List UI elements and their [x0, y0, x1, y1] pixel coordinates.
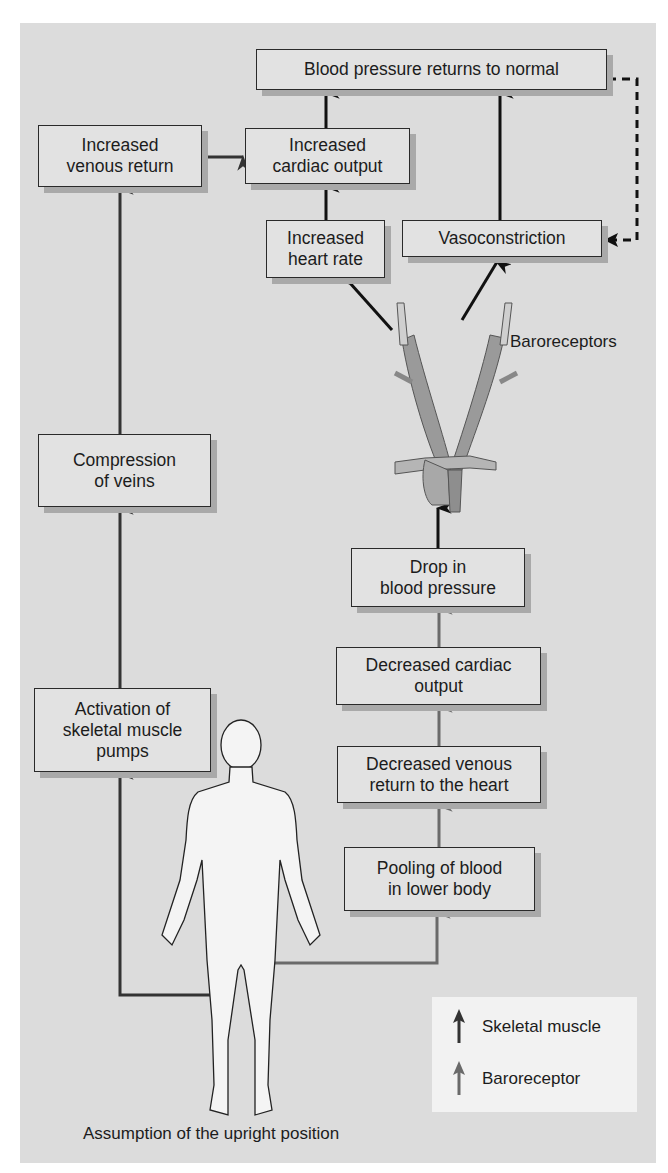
- baroreceptor-arrow-icon: [452, 1061, 466, 1097]
- decreased-cardiac-output-box: Decreased cardiac output: [336, 647, 541, 705]
- compression-of-veins-box: Compression of veins: [38, 434, 211, 507]
- dashed-feedback-line: [608, 79, 637, 240]
- drop-blood-pressure-box: Drop in blood pressure: [351, 548, 525, 607]
- decreased-venous-return-box: Decreased venous return to the heart: [337, 746, 541, 803]
- increased-heart-rate-box: Increased heart rate: [266, 220, 385, 278]
- legend: Skeletal muscle Baroreceptor: [432, 997, 637, 1112]
- baroreceptor-vessels-icon: [395, 303, 517, 512]
- arrow-upright-to-pooling: [262, 913, 437, 963]
- arrow-baro-to-heart-rate: [350, 283, 392, 330]
- pooling-blood-box: Pooling of blood in lower body: [344, 847, 535, 911]
- skeletal-arrow-icon: [452, 1009, 466, 1045]
- activation-muscle-pumps-box: Activation of skeletal muscle pumps: [34, 688, 211, 772]
- caption-label: Assumption of the upright position: [83, 1124, 339, 1144]
- bp-returns-normal-box: Blood pressure returns to normal: [256, 49, 607, 90]
- vasoconstriction-box: Vasoconstriction: [402, 220, 602, 257]
- increased-cardiac-output-box: Increased cardiac output: [245, 128, 410, 184]
- increased-venous-return-box: Increased venous return: [38, 125, 202, 187]
- standing-person-icon: [162, 720, 320, 1115]
- legend-item-skeletal: Skeletal muscle: [452, 1009, 601, 1045]
- legend-skeletal-label: Skeletal muscle: [482, 1017, 601, 1037]
- baroreceptors-label: Baroreceptors: [510, 332, 617, 352]
- arrow-baro-to-vasoconstriction: [462, 262, 497, 320]
- legend-item-baroreceptor: Baroreceptor: [452, 1061, 580, 1097]
- legend-baroreceptor-label: Baroreceptor: [482, 1069, 580, 1089]
